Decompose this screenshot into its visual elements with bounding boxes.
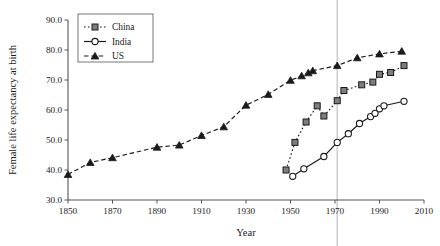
x-axis-tick-label: 1870 — [103, 206, 122, 216]
series-marker-india — [290, 173, 296, 179]
y-axis-tick-label: 90.0 — [46, 15, 62, 25]
x-axis-tick-label: 1890 — [148, 206, 167, 216]
y-axis-tick-labels: 30.040.050.060.070.080.090.0 — [46, 15, 62, 205]
y-axis-tick-label: 30.0 — [46, 195, 62, 205]
legend-label-china: China — [112, 22, 135, 32]
legend-label-india: India — [112, 37, 132, 47]
series-markers — [64, 48, 407, 180]
series-marker-china — [321, 113, 327, 119]
series-line-china — [286, 66, 404, 170]
x-axis-tick-label: 2010 — [415, 206, 434, 216]
series-marker-china — [303, 119, 309, 125]
x-axis-tick-label: 1930 — [237, 206, 256, 216]
series-marker-china — [388, 70, 394, 76]
series-marker-china — [283, 167, 289, 173]
series-marker-us — [353, 54, 361, 61]
series-line-us — [68, 51, 402, 174]
series-marker-china — [292, 139, 298, 145]
y-axis-tick-label: 50.0 — [46, 135, 62, 145]
series-marker-china — [334, 98, 340, 104]
series-marker-us — [264, 91, 272, 98]
series-marker-india — [401, 98, 407, 104]
series-marker-china — [359, 82, 365, 88]
series-marker-us — [198, 132, 206, 139]
series-marker-india — [301, 166, 307, 172]
x-axis-tick-labels: 185018701890191019301950197019902010 — [59, 206, 434, 216]
series-marker-china — [370, 79, 376, 85]
legend-marker-china — [92, 24, 98, 30]
series-marker-india — [345, 131, 351, 137]
y-axis-title: Female life expectancy at birth — [7, 44, 18, 175]
y-axis-tick-label: 80.0 — [46, 45, 62, 55]
series-marker-us — [64, 171, 72, 178]
x-axis-tick-label: 1990 — [370, 206, 389, 216]
chart-container: 185018701890191019301950197019902010 30.… — [0, 0, 440, 246]
legend-label-us: US — [112, 51, 124, 61]
series-marker-us — [398, 48, 406, 55]
series-marker-india — [381, 103, 387, 109]
series-marker-us — [242, 102, 250, 109]
series-marker-china — [314, 103, 320, 109]
line-chart: 185018701890191019301950197019902010 30.… — [0, 0, 440, 246]
series-line-india — [293, 101, 404, 176]
series-marker-china — [341, 88, 347, 94]
legend-marker-india — [92, 38, 98, 44]
x-axis-tick-label: 1850 — [59, 206, 78, 216]
series-marker-us — [86, 159, 94, 166]
y-axis-tick-label: 40.0 — [46, 165, 62, 175]
x-axis-tick-label: 1970 — [326, 206, 345, 216]
series-marker-india — [334, 139, 340, 145]
y-axis-tick-label: 70.0 — [46, 75, 62, 85]
legend: ChinaIndiaUS — [78, 14, 153, 62]
series-marker-india — [321, 153, 327, 159]
series-marker-us — [333, 62, 341, 69]
series-marker-china — [401, 63, 407, 69]
x-axis-tick-label: 1950 — [281, 206, 300, 216]
series-marker-china — [377, 71, 383, 77]
series-marker-india — [356, 120, 362, 126]
series-marker-us — [287, 77, 295, 84]
series-lines — [68, 51, 404, 176]
x-axis-title: Year — [236, 227, 256, 238]
y-axis-tick-label: 60.0 — [46, 105, 62, 115]
series-marker-us — [109, 154, 117, 161]
x-axis-tick-label: 1910 — [192, 206, 211, 216]
series-marker-us — [376, 50, 384, 57]
